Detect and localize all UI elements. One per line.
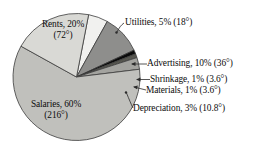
slice-label-salaries-line1: Salaries, 60% (31, 99, 81, 109)
slice-label-advertising: Advertising, 10% (36°) (147, 58, 233, 69)
slice-label-shrinkage: Shrinkage, 1% (3.6°) (150, 74, 227, 85)
slice-label-salaries-line2: (216°) (13, 110, 99, 121)
pie-chart-figure: Rents, 20% (72°) Salaries, 60% (216°) Ut… (0, 0, 265, 150)
slice-label-materials: Materials, 1% (3.6°) (146, 85, 221, 96)
slice-label-rents-line1: Rents, 20% (42, 19, 84, 29)
slice-label-rents: Rents, 20% (72°) (26, 19, 100, 40)
slice-label-rents-line2: (72°) (26, 30, 100, 41)
leader-dot-depreciation (125, 91, 127, 93)
slice-label-utilities: Utilities, 5% (18°) (125, 17, 192, 28)
slice-label-salaries: Salaries, 60% (216°) (13, 99, 99, 120)
slice-label-depreciation: Depreciation, 3% (10.8°) (133, 103, 225, 114)
leader-dot-utilities (115, 31, 117, 33)
